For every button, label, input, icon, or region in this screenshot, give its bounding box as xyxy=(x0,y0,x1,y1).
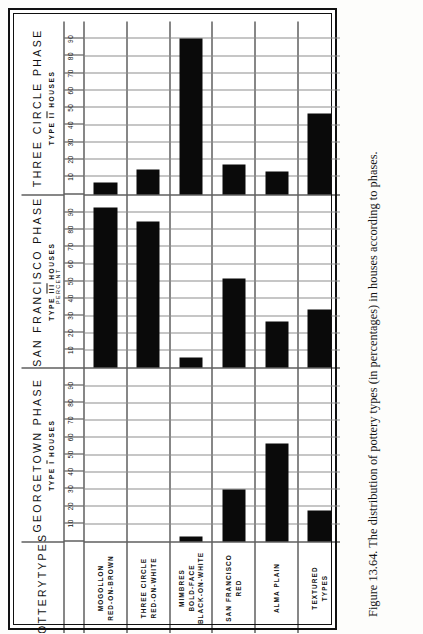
bar xyxy=(222,489,245,541)
phase-title-3: THREE CIRCLE PHASETYPE II HOUSES xyxy=(21,21,63,194)
pottery-type-label: SAN FRANCISCORED xyxy=(212,541,254,633)
axis-tick-label-90: 90 xyxy=(66,381,73,389)
phase-name: THREE CIRCLE PHASE xyxy=(30,28,42,187)
gridline-90 xyxy=(255,211,297,212)
axis-scale-1: 102030405060708090 xyxy=(64,367,83,540)
gridline-30 xyxy=(127,488,169,489)
gridline-60 xyxy=(127,436,169,437)
phase-roman-numeral: I xyxy=(47,460,54,463)
gridline-70 xyxy=(212,72,254,73)
gridline-60 xyxy=(212,89,254,90)
bar xyxy=(179,536,202,541)
gridline-80 xyxy=(127,402,169,403)
gridline-90 xyxy=(255,37,297,38)
gridline-90 xyxy=(127,385,169,386)
bar xyxy=(265,171,288,193)
gridline-40 xyxy=(84,471,126,472)
table-row: ALMA PLAIN xyxy=(255,21,298,633)
table-row: SAN FRANCISCORED xyxy=(212,21,255,633)
gridline-20 xyxy=(127,158,169,159)
header-row: POTTERYTYPESGEORGETOWN PHASETYPE I HOUSE… xyxy=(21,21,64,633)
bar xyxy=(307,309,330,368)
gridline-90 xyxy=(127,211,169,212)
pottery-type-text: TEXTUREDTYPES xyxy=(309,566,329,609)
gridline-80 xyxy=(170,228,212,229)
gridline-20 xyxy=(212,158,254,159)
plot-panel-3 xyxy=(255,21,297,194)
phase-title-block: THREE CIRCLE PHASETYPE II HOUSES xyxy=(21,21,63,194)
gridline-20 xyxy=(255,158,297,159)
gridline-70 xyxy=(84,419,126,420)
axis-tick-label-50: 50 xyxy=(66,103,73,111)
gridline-40 xyxy=(255,124,297,125)
gridline-30 xyxy=(298,488,340,489)
pottery-type-label: MOGOLLONRED-ON-BROWN xyxy=(84,541,126,633)
axis-tick-label-30: 30 xyxy=(66,138,73,146)
gridline-90 xyxy=(84,385,126,386)
pottery-type-label: ALMA PLAIN xyxy=(255,541,297,633)
pottery-type-line2: RED-ON-BROWN xyxy=(105,555,115,620)
axis-tick-label-80: 80 xyxy=(66,51,73,59)
axis-tick-label-10: 10 xyxy=(66,345,73,353)
bar xyxy=(136,169,159,193)
plot-panel-2 xyxy=(170,194,212,368)
gridline-80 xyxy=(298,402,340,403)
axis-row: 102030405060708090102030405060708090PERC… xyxy=(64,21,84,633)
row-header-title-line1: POTTERY xyxy=(33,578,51,633)
percent-axis-label: PERCENT xyxy=(54,268,60,304)
axis-row-spacer xyxy=(64,540,83,633)
gridline-10 xyxy=(84,523,126,524)
rotated-figure-area: POTTERYTYPESGEORGETOWN PHASETYPE I HOUSE… xyxy=(21,21,340,633)
axis-tick-label-70: 70 xyxy=(66,242,73,250)
gridline-70 xyxy=(298,419,340,420)
gridline-60 xyxy=(170,436,212,437)
table-row: MOGOLLONRED-ON-BROWN xyxy=(84,21,127,633)
phase-title-block: GEORGETOWN PHASETYPE I HOUSES xyxy=(21,368,63,541)
plot-panel-3 xyxy=(84,21,126,194)
gridline-80 xyxy=(170,402,212,403)
pottery-type-line1: ALMA PLAIN xyxy=(271,562,281,612)
gridline-60 xyxy=(127,89,169,90)
gridline-80 xyxy=(255,228,297,229)
plot-panel-2 xyxy=(127,194,169,368)
gridline-60 xyxy=(255,436,297,437)
gridline-20 xyxy=(298,505,340,506)
phase-subtitle: TYPE II HOUSES xyxy=(47,70,54,145)
gridline-70 xyxy=(212,419,254,420)
table-row: THREE CIRCLERED-ON-WHITE xyxy=(127,21,170,633)
gridline-60 xyxy=(298,89,340,90)
pottery-type-line2: BOLD-FACE xyxy=(186,551,196,623)
gridline-30 xyxy=(170,488,212,489)
plot-panel-3 xyxy=(298,21,340,194)
pottery-type-label: MIMBRESBOLD-FACEBLACK-ON-WHITE xyxy=(170,541,212,633)
gridline-50 xyxy=(255,106,297,107)
gridline-90 xyxy=(298,385,340,386)
plot-panel-3 xyxy=(127,21,169,194)
axis-tick-label-70: 70 xyxy=(66,415,73,423)
gridline-40 xyxy=(127,471,169,472)
gridline-70 xyxy=(127,72,169,73)
table-row: MIMBRESBOLD-FACEBLACK-ON-WHITE xyxy=(170,21,213,633)
gridline-20 xyxy=(170,505,212,506)
gridline-30 xyxy=(255,315,297,316)
plot-panel-2 xyxy=(212,194,254,368)
gridline-70 xyxy=(298,245,340,246)
gridline-70 xyxy=(255,72,297,73)
pottery-type-line1: SAN FRANCISCO xyxy=(223,554,233,622)
gridline-70 xyxy=(127,419,169,420)
axis-tick-label-40: 40 xyxy=(66,120,73,128)
gridline-50 xyxy=(212,454,254,455)
axis-tick-label-10: 10 xyxy=(66,519,73,527)
gridline-80 xyxy=(255,55,297,56)
axis-tick-label-30: 30 xyxy=(66,311,73,319)
row-header-title: POTTERYTYPES xyxy=(21,541,63,633)
gridline-90 xyxy=(170,385,212,386)
gridline-60 xyxy=(255,89,297,90)
phase-subtitle: TYPE III HOUSES xyxy=(47,242,54,320)
pottery-type-line3: BLACK-ON-WHITE xyxy=(195,551,205,623)
axis-tick-label-60: 60 xyxy=(66,432,73,440)
gridline-50 xyxy=(84,106,126,107)
gridline-40 xyxy=(170,297,212,298)
pottery-type-text: MIMBRESBOLD-FACEBLACK-ON-WHITE xyxy=(176,551,206,623)
gridline-70 xyxy=(255,245,297,246)
